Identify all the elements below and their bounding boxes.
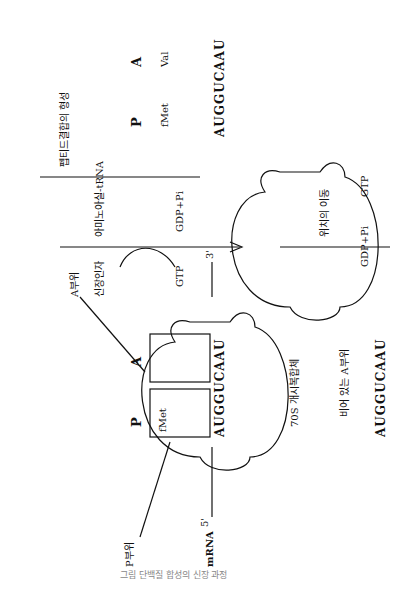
translocation-gtp-label: GTP [360,176,370,197]
complex2-a: A [130,57,143,67]
mrna-codons: AUGGUCAAU [214,339,226,437]
complex2-fmet: fMet [160,103,170,127]
mrna-label: mRNA [205,531,215,567]
complex2-val: Val [160,52,170,67]
translocation-label: 위치의 이동 [320,189,330,237]
empty-a-site-label: 비어 있는 A부위 [340,349,350,417]
elongation-factor-label: 신장인자 [95,261,105,297]
gtp-label: GTP [175,266,185,287]
aminoacyl-trna-label: 아미노아실-tRNA [95,161,105,237]
three-prime-label: 3' [205,250,215,259]
complex2-p: P [130,117,143,127]
p-site-callout: P부위 [125,542,135,567]
complex4-codons: AUGGUCAAU [375,339,387,437]
gdp-pi-label: GDP+Pi [175,191,185,232]
five-prime-label: 5' [200,518,210,527]
complex2-codons: AUGGUCAAU [214,39,226,137]
figure-caption: 그림 단백질 합성의 신장 과정 [120,568,227,581]
a-site-letter: A [130,357,143,367]
peptide-bond-label: 펩티드결합의 형성 [60,92,70,167]
initiation-complex-caption: 70S 개시복합체 [290,359,300,427]
translocation-gdp-label: GDP+Pi [360,226,370,267]
a-site-callout: A부위 [70,272,80,297]
trna-fmet-label: fMet [158,408,168,432]
diagram-rotated: P A fMet AUGGUCAAU mRNA 5' 3' P부위 A부위 70… [0,0,394,597]
p-site-letter: P [130,417,143,427]
diagram-lines [0,0,394,597]
